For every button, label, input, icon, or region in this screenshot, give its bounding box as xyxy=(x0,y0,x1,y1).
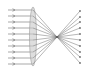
arrowhead-icon xyxy=(79,10,81,12)
arrowhead-icon xyxy=(79,56,81,58)
biconvex-lens xyxy=(30,7,37,66)
arrowhead-icon xyxy=(79,39,81,41)
arrowhead-icon xyxy=(79,45,81,47)
arrowhead-icon xyxy=(79,27,81,29)
diverging-rays xyxy=(57,10,81,64)
diverging-ray xyxy=(57,17,80,37)
diverging-ray xyxy=(57,37,80,57)
arrowhead-icon xyxy=(79,33,81,35)
lens-ray-diagram xyxy=(0,0,91,67)
arrowhead-icon xyxy=(79,62,81,64)
arrowhead-icon xyxy=(79,51,81,53)
arrowhead-icon xyxy=(79,16,81,18)
focal-point-marker xyxy=(56,36,58,38)
arrowhead-icon xyxy=(79,21,81,23)
